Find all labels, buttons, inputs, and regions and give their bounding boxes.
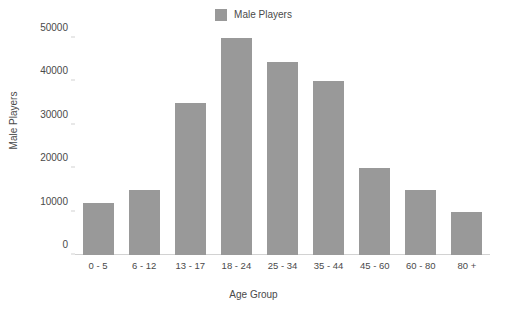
bar[interactable]: [405, 190, 436, 255]
bar[interactable]: [175, 103, 206, 255]
bar[interactable]: [267, 62, 298, 255]
y-axis-title: Male Players: [8, 81, 19, 161]
y-axis-tick-label: 20000: [40, 152, 75, 163]
bar-slot: [167, 38, 213, 255]
legend-swatch-icon: [215, 9, 227, 21]
x-axis-tick-label: 0 - 5: [75, 260, 121, 271]
bar-slot: [444, 38, 490, 255]
bar-slot: [398, 38, 444, 255]
y-axis-tick-label: 50000: [40, 22, 75, 33]
y-axis-tick-label: 40000: [40, 65, 75, 76]
x-axis-tick-label: 80 +: [444, 260, 490, 271]
y-axis-tick-label: 0: [62, 239, 75, 250]
bar-slot: [306, 38, 352, 255]
bar[interactable]: [359, 168, 390, 255]
x-axis-title: Age Group: [0, 289, 507, 300]
x-axis-tick-label: 45 - 60: [352, 260, 398, 271]
x-axis-tick-label: 60 - 80: [398, 260, 444, 271]
bar-slot: [213, 38, 259, 255]
y-axis-tick-label: 30000: [40, 108, 75, 119]
bar[interactable]: [451, 212, 482, 255]
bar[interactable]: [313, 81, 344, 255]
legend-label: Male Players: [234, 9, 292, 21]
x-axis-tick-label: 35 - 44: [306, 260, 352, 271]
x-axis-tick-label: 13 - 17: [167, 260, 213, 271]
bar-series-male-players: [75, 38, 490, 255]
legend-item-male-players: Male Players: [215, 9, 292, 21]
bar-slot: [259, 38, 305, 255]
bar-slot: [352, 38, 398, 255]
y-axis-tick-label: 10000: [40, 195, 75, 206]
x-axis-tick-label: 18 - 24: [213, 260, 259, 271]
bar[interactable]: [83, 203, 114, 255]
bar-slot: [121, 38, 167, 255]
x-axis-tick-label: 6 - 12: [121, 260, 167, 271]
bar[interactable]: [129, 190, 160, 255]
bar-chart: Male Players Male Players 01000020000300…: [0, 0, 507, 317]
x-axis-tick-label: 25 - 34: [259, 260, 305, 271]
chart-legend: Male Players: [0, 9, 507, 21]
bar[interactable]: [221, 38, 252, 255]
plot-area: 01000020000300004000050000: [75, 38, 490, 255]
x-axis-tick-labels: 0 - 56 - 1213 - 1718 - 2425 - 3435 - 444…: [75, 260, 490, 271]
bar-slot: [75, 38, 121, 255]
